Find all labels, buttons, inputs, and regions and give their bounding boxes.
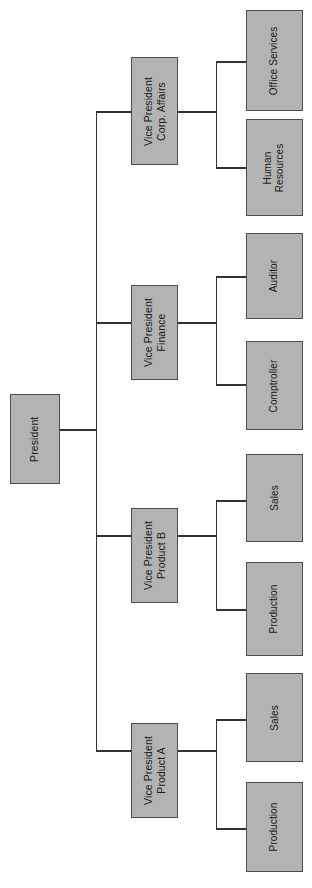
node-production-a[interactable]: Production xyxy=(246,782,303,872)
node-sales-b-label: Sales xyxy=(268,485,280,511)
connector-corp-affairs-bracket xyxy=(216,61,218,168)
connector-finance-bracket xyxy=(216,276,218,385)
node-comptroller-label: Comptroller xyxy=(269,359,281,412)
connector-to-human-resources xyxy=(216,167,247,169)
node-vp-corp-affairs-label: Vice President Corp. Affairs xyxy=(142,77,167,146)
node-office-services[interactable]: Office Services xyxy=(246,10,303,111)
node-sales-a-label: Sales xyxy=(268,705,280,731)
connector-to-office-services xyxy=(216,61,247,63)
connector-president-to-trunk xyxy=(60,429,97,431)
connector-to-comptroller xyxy=(216,384,247,386)
connector-product-a-bracket xyxy=(216,719,218,829)
node-auditor[interactable]: Auditor xyxy=(246,233,303,319)
connector-to-production-b xyxy=(216,609,247,611)
node-vp-product-a[interactable]: Vice President Product A xyxy=(131,723,178,818)
node-comptroller[interactable]: Comptroller xyxy=(246,341,303,430)
connector-trunk-to-vp-finance xyxy=(96,322,132,324)
connector-to-sales-b xyxy=(216,500,247,502)
node-vp-finance[interactable]: Vice President Finance xyxy=(131,285,178,380)
org-chart: President Vice President Corp. Affairs V… xyxy=(0,0,312,888)
connector-trunk-to-vp-product-b xyxy=(96,535,132,537)
connector-product-b-bracket xyxy=(216,500,218,610)
node-human-resources[interactable]: Human Resources xyxy=(246,119,303,216)
node-auditor-label: Auditor xyxy=(268,260,280,292)
node-production-a-label: Production xyxy=(269,803,281,852)
connector-vp-finance-stub xyxy=(178,322,217,324)
connector-trunk-to-vp-corp-affairs xyxy=(96,111,132,113)
node-vp-product-b[interactable]: Vice President Product B xyxy=(131,508,178,603)
node-sales-a[interactable]: Sales xyxy=(246,673,303,762)
node-production-b-label: Production xyxy=(269,585,281,634)
node-vp-finance-label: Vice President Finance xyxy=(142,298,167,367)
node-production-b[interactable]: Production xyxy=(246,562,303,656)
node-vp-product-a-label: Vice President Product A xyxy=(142,736,167,805)
connector-trunk-vertical xyxy=(96,112,98,751)
node-human-resources-label: Human Resources xyxy=(262,143,286,192)
connector-trunk-to-vp-product-a xyxy=(96,750,132,752)
connector-vp-product-b-stub xyxy=(178,535,217,537)
connector-vp-product-a-stub xyxy=(178,750,217,752)
node-sales-b[interactable]: Sales xyxy=(246,454,303,542)
connector-to-sales-a xyxy=(216,719,247,721)
node-vp-corp-affairs[interactable]: Vice President Corp. Affairs xyxy=(131,57,178,165)
node-president-label: President xyxy=(29,416,42,461)
connector-vp-corp-affairs-stub xyxy=(178,111,217,113)
connector-to-production-a xyxy=(216,828,247,830)
node-office-services-label: Office Services xyxy=(269,26,281,95)
connector-to-auditor xyxy=(216,276,247,278)
node-vp-product-b-label: Vice President Product B xyxy=(142,521,167,590)
node-president[interactable]: President xyxy=(10,394,60,484)
